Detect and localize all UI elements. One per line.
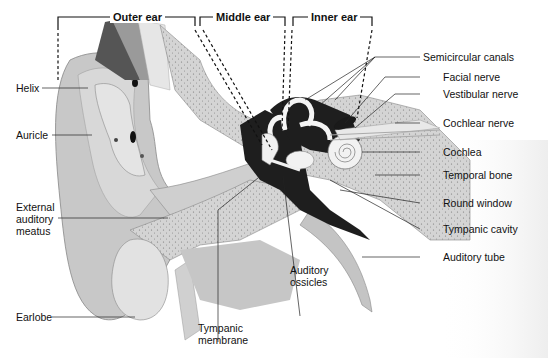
label-cochlea: Cochlea bbox=[443, 146, 482, 158]
label-facial-nerve: Facial nerve bbox=[443, 71, 500, 83]
label-auditory-tube: Auditory tube bbox=[443, 251, 505, 263]
label-auricle: Auricle bbox=[16, 129, 48, 141]
section-label-outer-ear: Outer ear bbox=[110, 11, 165, 23]
label-earlobe: Earlobe bbox=[16, 311, 52, 323]
label-auditory-ossicles: Auditory ossicles bbox=[290, 264, 329, 288]
label-helix: Helix bbox=[16, 82, 39, 94]
label-tympanic-membrane: Tympanic membrane bbox=[198, 322, 248, 346]
section-label-inner-ear: Inner ear bbox=[308, 11, 360, 23]
label-temporal-bone: Temporal bone bbox=[443, 169, 512, 181]
label-external-auditory-meatus: External auditory meatus bbox=[16, 201, 55, 237]
ear-anatomy-diagram: Outer ear Middle ear Inner ear Helix Aur… bbox=[0, 0, 548, 358]
label-semicircular-canals: Semicircular canals bbox=[423, 51, 514, 63]
label-round-window: Round window bbox=[443, 197, 512, 209]
label-tympanic-cavity: Tympanic cavity bbox=[443, 223, 518, 235]
label-cochlear-nerve: Cochlear nerve bbox=[443, 117, 514, 129]
label-vestibular-nerve: Vestibular nerve bbox=[443, 88, 518, 100]
section-label-middle-ear: Middle ear bbox=[213, 11, 273, 23]
